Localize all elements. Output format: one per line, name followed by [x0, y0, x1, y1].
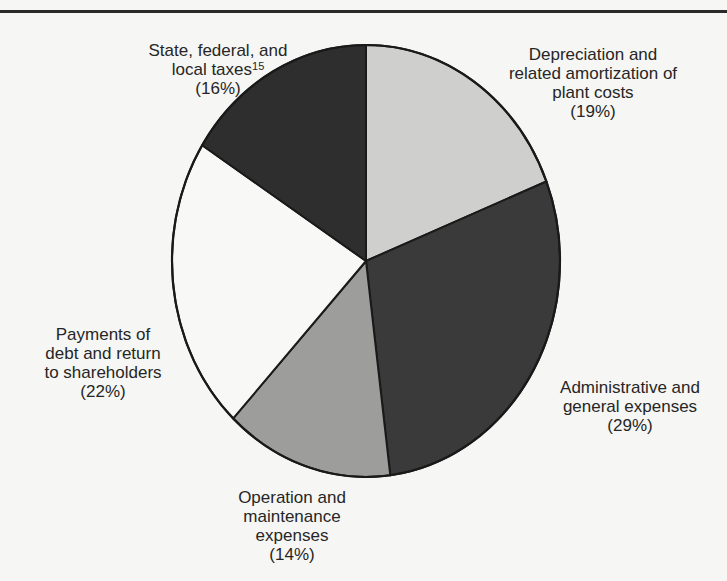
label-depreciation-line3: plant costs [480, 83, 706, 102]
label-payments-line1: Payments of [18, 325, 188, 344]
label-administrative-line2: general expenses [540, 397, 720, 416]
label-payments: Payments of debt and return to sharehold… [18, 325, 188, 401]
label-administrative-pct: (29%) [540, 416, 720, 435]
label-depreciation-line2: related amortization of [480, 64, 706, 83]
label-operation-line2: maintenance [222, 507, 362, 526]
label-payments-line2: debt and return [18, 344, 188, 363]
label-taxes-pct: (16%) [118, 79, 318, 98]
label-operation-line3: expenses [222, 526, 362, 545]
footnote-marker: 15 [252, 60, 264, 72]
label-payments-pct: (22%) [18, 382, 188, 401]
label-taxes-line2: local taxes [172, 60, 252, 79]
label-taxes: State, federal, and local taxes15 (16%) [118, 41, 318, 98]
label-payments-line3: to shareholders [18, 363, 188, 382]
label-operation-line1: Operation and [222, 488, 362, 507]
label-depreciation: Depreciation and related amortization of… [480, 45, 706, 121]
label-depreciation-pct: (19%) [480, 102, 706, 121]
label-operation-pct: (14%) [222, 545, 362, 564]
label-depreciation-line1: Depreciation and [480, 45, 706, 64]
label-administrative-line1: Administrative and [540, 378, 720, 397]
label-administrative: Administrative and general expenses (29%… [540, 378, 720, 435]
label-taxes-line1: State, federal, and [118, 41, 318, 60]
label-operation: Operation and maintenance expenses (14%) [222, 488, 362, 564]
